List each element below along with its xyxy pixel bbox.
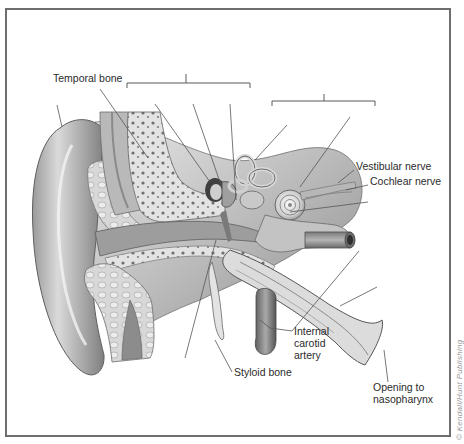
internal-carotid-artery [255, 288, 276, 354]
label-internal-carotid-artery-3: artery [294, 349, 321, 361]
middle-ear-bracket [127, 74, 250, 88]
carotid-horizontal [305, 232, 355, 248]
label-cochlear-nerve: Cochlear nerve [370, 175, 441, 187]
ear-anatomy-illustration [0, 0, 464, 444]
label-opening-to-nasopharynx-1: Opening to [373, 381, 424, 393]
label-opening-to-nasopharynx-2: nasopharynx [373, 393, 433, 405]
inner-ear-bracket [272, 94, 375, 106]
outer-ear-leader [57, 105, 62, 127]
label-temporal-bone: Temporal bone [53, 72, 122, 84]
auricle [32, 120, 105, 375]
eustachian-tube-leader [340, 287, 377, 306]
opening-to-nasopharynx-leader [384, 350, 388, 382]
label-styloid-bone: Styloid bone [234, 366, 292, 378]
label-internal-carotid-artery-2: carotid [294, 337, 326, 349]
label-vestibular-nerve: Vestibular nerve [356, 160, 431, 172]
copyright-notice: © Kendall/Hunt Publishing [455, 339, 464, 440]
vestibule [240, 191, 264, 209]
styloid-bone-leader [215, 340, 232, 372]
label-internal-carotid-artery-1: Internal [294, 325, 329, 337]
